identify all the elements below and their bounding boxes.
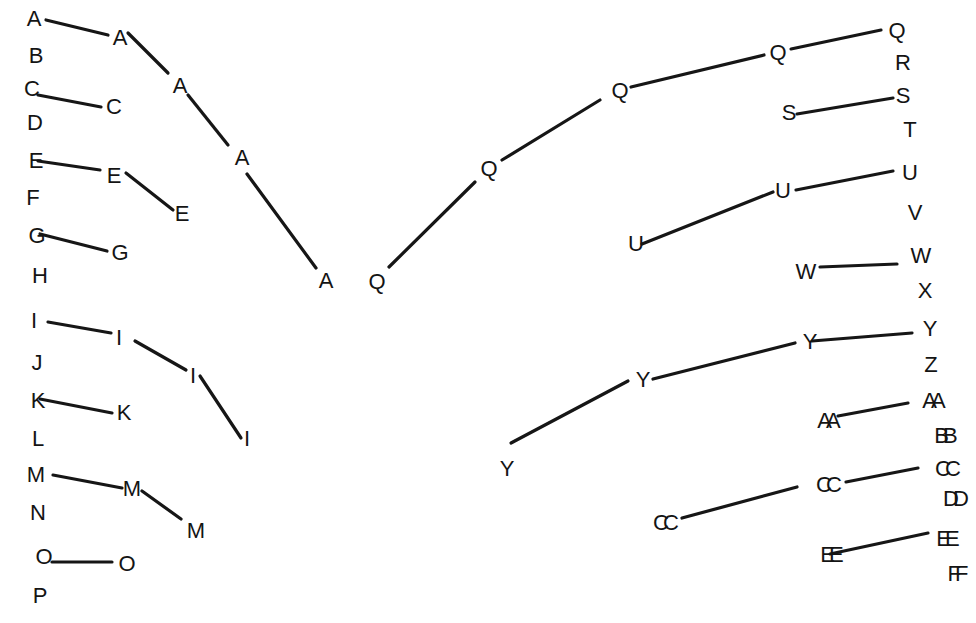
node-label-e3: E (175, 201, 190, 226)
node-label-a4: A (235, 145, 250, 170)
edge-cc2-cc3 (846, 468, 918, 482)
node-label-i3: I (190, 363, 196, 388)
edge-e2-e3 (126, 173, 173, 210)
node-label-q1: Q (368, 269, 385, 294)
node-label-aa2: AA (922, 388, 946, 413)
node-label-j1: J (32, 350, 43, 375)
edge-w1-w2 (820, 264, 897, 267)
node-label-m1: M (27, 462, 45, 487)
edge-u2-u3 (796, 171, 893, 190)
edge-y3-y4 (812, 333, 912, 341)
edge-a2-a3 (128, 33, 168, 73)
node-label-cc2: CC (816, 472, 842, 497)
node-label-e1: E (29, 148, 44, 173)
node-label-g1: G (28, 223, 45, 248)
node-label-z1: Z (924, 352, 937, 377)
node-label-i1: I (31, 308, 37, 333)
edge-y2-y3 (653, 343, 795, 379)
node-label-f1: F (26, 185, 39, 210)
node-label-n1: N (30, 500, 46, 525)
edge-aa1-aa2 (838, 403, 908, 416)
edge-a1-a2 (46, 20, 108, 35)
node-label-w2: W (911, 243, 932, 268)
node-label-k2: K (117, 400, 132, 425)
node-label-p1: P (33, 583, 48, 608)
node-label-a1: A (27, 6, 42, 31)
node-label-k1: K (31, 388, 46, 413)
node-label-cc3: CC (935, 456, 961, 481)
node-label-ee1: EE (820, 542, 843, 567)
edge-i3-i4 (200, 376, 241, 438)
node-label-i4: I (244, 426, 250, 451)
node-label-q3: Q (611, 78, 628, 103)
node-label-a3: A (173, 73, 188, 98)
node-label-x1: X (918, 278, 933, 303)
node-label-a5: A (319, 268, 334, 293)
node-label-aa1: AA (817, 408, 841, 433)
edge-c1-c2 (38, 95, 101, 107)
node-label-bb1: BB (934, 423, 957, 448)
node-label-t1: T (903, 117, 916, 142)
edge-m2-m3 (142, 491, 181, 519)
node-label-u1: U (628, 231, 644, 256)
node-label-y3: Y (803, 329, 818, 354)
node-label-c2: C (106, 94, 122, 119)
node-label-ee2: EE (936, 526, 959, 551)
edge-a3-a4 (188, 95, 228, 145)
edge-q4-q5 (791, 30, 881, 49)
node-label-y2: Y (636, 367, 651, 392)
node-label-y1: Y (500, 456, 515, 481)
edge-k1-k2 (40, 399, 112, 413)
node-label-u2: U (775, 178, 791, 203)
edge-q2-q3 (502, 100, 600, 160)
node-label-l1: L (32, 426, 44, 451)
edge-s1-s2 (797, 98, 893, 114)
edge-m1-m2 (53, 475, 122, 488)
node-label-g2: G (111, 240, 128, 265)
node-label-a2: A (113, 25, 128, 50)
edge-q3-q4 (631, 55, 764, 87)
edge-cc1-cc2 (682, 487, 797, 518)
edge-i1-i2 (48, 322, 111, 333)
node-label-d1: D (27, 110, 43, 135)
node-label-b1: B (29, 43, 44, 68)
node-label-s2: S (896, 83, 911, 108)
node-label-q4: Q (769, 40, 786, 65)
node-label-i2: I (116, 325, 122, 350)
node-label-v1: V (908, 200, 923, 225)
nodes-layer: AAAAABCCDEEEFGGHIIIIJKKLMMMNOOPQQQQQRSST… (24, 6, 968, 608)
node-label-u3: U (902, 160, 918, 185)
node-label-o1: O (35, 544, 52, 569)
node-label-o2: O (118, 551, 135, 576)
node-label-ff1: FF (948, 561, 968, 586)
node-label-m2: M (123, 476, 141, 501)
edge-q1-q2 (389, 182, 475, 267)
cluster-chain-diagram: AAAAABCCDEEEFGGHIIIIJKKLMMMNOOPQQQQQRSST… (0, 0, 976, 623)
node-label-r1: R (895, 50, 911, 75)
node-label-e2: E (107, 163, 122, 188)
edge-u1-u2 (642, 192, 773, 244)
node-label-m3: M (187, 518, 205, 543)
node-label-q5: Q (888, 18, 905, 43)
node-label-h1: H (32, 263, 48, 288)
node-label-w1: W (796, 259, 817, 284)
node-label-y4: Y (923, 316, 938, 341)
edge-ee1-ee2 (830, 533, 928, 554)
edge-y1-y2 (511, 381, 628, 443)
node-label-q2: Q (480, 156, 497, 181)
node-label-dd1: DD (943, 486, 968, 511)
edge-i2-i3 (135, 341, 186, 370)
node-label-c1: C (24, 76, 40, 101)
edge-g1-g2 (40, 234, 107, 251)
edge-a4-a5 (247, 174, 316, 268)
edge-e1-e2 (38, 161, 100, 170)
node-label-s1: S (782, 100, 797, 125)
node-label-cc1: CC (653, 510, 679, 535)
